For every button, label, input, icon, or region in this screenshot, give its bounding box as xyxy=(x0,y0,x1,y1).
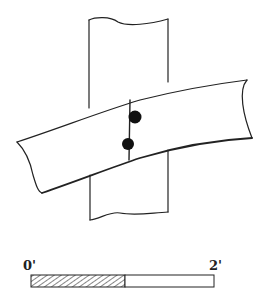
peg-lower xyxy=(122,138,134,150)
scale-end-label: 2' xyxy=(209,258,222,273)
joint-diagram xyxy=(0,0,266,305)
vertical-post xyxy=(89,18,168,220)
splice-line xyxy=(129,100,130,160)
scale-bar xyxy=(31,275,214,287)
peg-upper xyxy=(129,111,142,124)
inclined-beam xyxy=(17,80,252,193)
scale-start-label: 0' xyxy=(23,258,36,273)
